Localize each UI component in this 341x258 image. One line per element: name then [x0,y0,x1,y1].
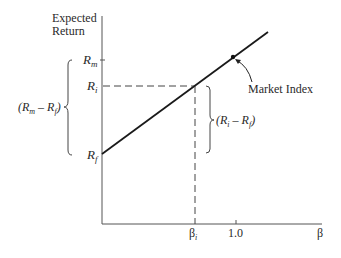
rm-minus-rf-label: (Rm – Rf) [18,100,61,116]
x-axis-label: β [317,226,323,240]
rf-label: Rf [86,147,99,164]
ri-label: Ri [86,78,98,95]
rm-label: Rm [82,52,98,69]
ri-minus-rf-label: (Ri – Rf) [216,113,255,129]
security-market-line [102,32,268,154]
left-brace [64,60,72,155]
one-label: 1.0 [228,226,243,240]
y-axis-label-line2: Return [52,24,85,38]
market-index-point [231,55,235,59]
arrowhead-icon [235,59,241,64]
market-index-label: Market Index [248,82,313,96]
sml-diagram: Expected Return Rm Ri Rf (Rm – Rf) (Ri –… [0,0,341,258]
y-axis-label-line1: Expected [52,11,97,25]
right-brace [206,86,214,153]
beta-i-label: βi [189,226,197,242]
